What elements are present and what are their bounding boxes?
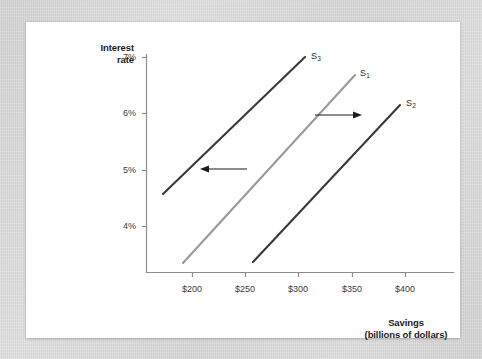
figure-page: Interest rate Savings (billions of dolla… — [26, 22, 460, 338]
x-axis-title-line2: (billions of dollars) — [365, 329, 448, 340]
x-tick-label-400: $400 — [383, 284, 427, 294]
x-tick-label-350: $350 — [330, 284, 374, 294]
curve-s3 — [163, 57, 305, 194]
y-tick-label-4: 4% — [110, 221, 136, 231]
x-tick-label-200: $200 — [170, 284, 214, 294]
x-tick-label-250: $250 — [223, 284, 267, 294]
curve-s2 — [253, 105, 400, 262]
x-axis-title-line1: Savings — [388, 317, 424, 328]
curve-label-s2: S2 — [406, 98, 416, 108]
rightward-shift-arrow — [315, 112, 362, 119]
curve-label-s3-subscript: 3 — [317, 55, 321, 62]
savings-supply-chart: Interest rate Savings (billions of dolla… — [26, 22, 460, 338]
y-tick-label-6: 6% — [110, 108, 136, 118]
curve-label-s3: S3 — [311, 51, 321, 61]
curve-label-s2-subscript: 2 — [412, 102, 416, 109]
curve-label-s1: S1 — [360, 68, 370, 78]
curve-label-s1-subscript: 1 — [366, 72, 370, 79]
screenshot-root: Interest rate Savings (billions of dolla… — [0, 0, 482, 359]
x-axis-title: Savings (billions of dollars) — [356, 317, 456, 340]
leftward-shift-arrow — [200, 166, 247, 173]
x-tick-label-300: $300 — [276, 284, 320, 294]
y-tick-label-7: 7% — [110, 52, 136, 62]
y-tick-label-5: 5% — [110, 165, 136, 175]
